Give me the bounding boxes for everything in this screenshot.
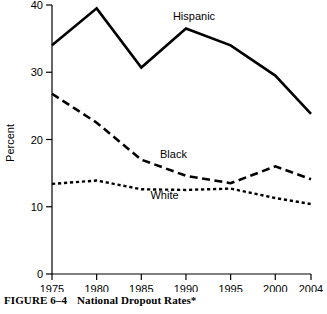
y-tick-label: 40 bbox=[31, 0, 43, 11]
x-tick-label: 1990 bbox=[174, 283, 198, 292]
figure-caption: FIGURE 6–4National Dropout Rates* bbox=[4, 294, 323, 306]
figure-caption-number: FIGURE 6–4 bbox=[4, 294, 67, 306]
x-axis: 1975198019851990199520002004 bbox=[40, 274, 323, 292]
series-line-white bbox=[52, 181, 311, 205]
x-tick-label: 2004 bbox=[299, 283, 323, 292]
x-tick-label: 1985 bbox=[129, 283, 153, 292]
y-tick-label: 10 bbox=[31, 201, 43, 213]
series-line-hispanic bbox=[52, 8, 311, 114]
series-label-white: White bbox=[150, 189, 178, 201]
chart-plot-area: 010203040 1975198019851990199520002004 P… bbox=[0, 0, 327, 292]
series-label-hispanic: Hispanic bbox=[173, 10, 216, 22]
y-tick-group: 010203040 bbox=[31, 0, 52, 280]
figure-caption-title: National Dropout Rates* bbox=[77, 294, 196, 306]
series-label-black: Black bbox=[160, 148, 187, 160]
figure-container: 010203040 1975198019851990199520002004 P… bbox=[0, 0, 327, 314]
x-tick-label: 1980 bbox=[84, 283, 108, 292]
line-chart: 010203040 1975198019851990199520002004 P… bbox=[0, 0, 327, 292]
y-tick-label: 0 bbox=[37, 268, 43, 280]
series-line-black bbox=[52, 94, 311, 183]
x-tick-label: 2000 bbox=[263, 283, 287, 292]
x-tick-label: 1975 bbox=[40, 283, 64, 292]
x-tick-group: 1975198019851990199520002004 bbox=[40, 274, 323, 292]
x-tick-label: 1995 bbox=[218, 283, 242, 292]
y-tick-label: 30 bbox=[31, 66, 43, 78]
y-tick-label: 20 bbox=[31, 134, 43, 146]
y-axis: 010203040 bbox=[31, 0, 52, 280]
series-label-group: HispanicBlackWhite bbox=[150, 10, 215, 202]
series-group bbox=[52, 8, 311, 204]
y-axis-title: Percent bbox=[4, 124, 16, 162]
